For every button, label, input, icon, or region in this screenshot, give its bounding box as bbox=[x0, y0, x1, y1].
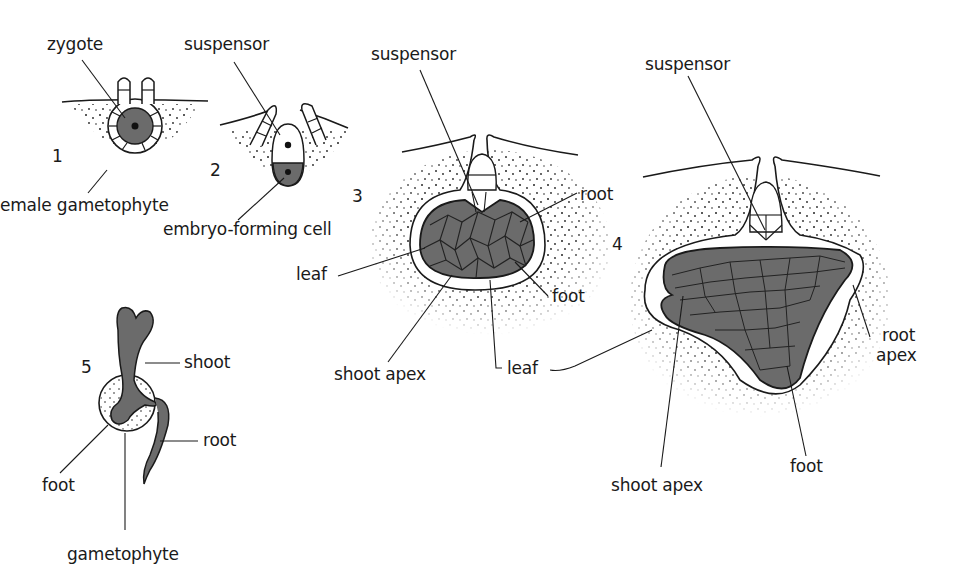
label-leaf-3-left: leaf bbox=[296, 266, 327, 283]
stage-3-embryo bbox=[365, 135, 615, 345]
embryo-development-figure bbox=[0, 0, 962, 579]
stage-4-embryo bbox=[625, 157, 895, 430]
label-foot-3: foot bbox=[552, 288, 585, 305]
label-embryo-forming-cell: embryo-forming cell bbox=[163, 221, 332, 238]
stage-number-2: 2 bbox=[210, 162, 221, 179]
label-root-4: root bbox=[882, 327, 915, 344]
label-female-gametophyte: emale gametophyte bbox=[0, 197, 169, 214]
stage-number-3: 3 bbox=[352, 188, 363, 205]
stage-1-zygote bbox=[62, 78, 208, 153]
label-apex-4: apex bbox=[876, 347, 917, 364]
label-suspensor-2: suspensor bbox=[184, 36, 269, 53]
label-leaf-3-bottom: leaf bbox=[507, 360, 538, 377]
label-shoot-apex-3: shoot apex bbox=[334, 366, 426, 383]
label-shoot-apex-4: shoot apex bbox=[611, 477, 703, 494]
stage-number-4: 4 bbox=[612, 236, 623, 253]
label-foot-5: foot bbox=[42, 477, 75, 494]
label-foot-4: foot bbox=[790, 458, 823, 475]
stage-2-embryo bbox=[220, 104, 350, 186]
stage-5-sporophyte bbox=[99, 307, 169, 484]
stage-number-1: 1 bbox=[52, 148, 63, 165]
label-root-3: root bbox=[580, 186, 613, 203]
label-zygote: zygote bbox=[47, 36, 103, 53]
label-gametophyte-5: gametophyte bbox=[67, 546, 179, 563]
label-root-5: root bbox=[203, 432, 236, 449]
stage-number-5: 5 bbox=[81, 359, 92, 376]
label-suspensor-3: suspensor bbox=[371, 46, 456, 63]
label-suspensor-4: suspensor bbox=[645, 56, 730, 73]
label-shoot-5: shoot bbox=[184, 354, 230, 371]
